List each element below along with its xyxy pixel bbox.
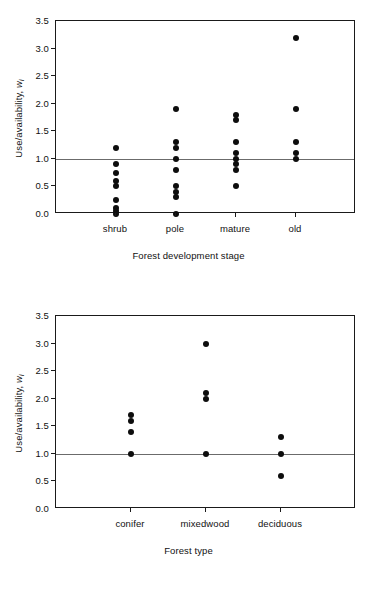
data-point: [203, 396, 209, 402]
data-point: [128, 451, 134, 457]
y-tick-label-0-5: 2.5: [1, 70, 49, 81]
y-tick-label-1-3: 1.5: [1, 420, 49, 431]
y-tick-label-1-2: 1.0: [1, 447, 49, 458]
data-point: [173, 194, 179, 200]
data-point: [233, 167, 239, 173]
x-tick-label-1-1: mixedwood: [181, 518, 230, 529]
data-point: [173, 106, 179, 112]
data-point: [233, 139, 239, 145]
data-point: [293, 139, 299, 145]
y-tick-label-0-2: 1.0: [1, 152, 49, 163]
x-tick-mark-1-2: [280, 508, 281, 512]
y-tick-mark-1-3: [51, 425, 55, 426]
data-point: [233, 183, 239, 189]
y-tick-mark-0-5: [51, 75, 55, 76]
y-tick-label-0-6: 3.0: [1, 42, 49, 53]
data-point: [113, 197, 119, 203]
x-tick-label-0-3: old: [289, 223, 302, 234]
x-tick-label-0-1: pole: [166, 223, 184, 234]
y-tick-label-0-0: 0.0: [1, 208, 49, 219]
data-point: [128, 429, 134, 435]
data-point: [113, 170, 119, 176]
data-point: [203, 341, 209, 347]
y-tick-mark-1-4: [51, 398, 55, 399]
y-tick-mark-0-4: [51, 103, 55, 104]
data-point: [278, 473, 284, 479]
x-tick-mark-0-1: [175, 213, 176, 217]
data-point: [113, 183, 119, 189]
data-point: [278, 434, 284, 440]
y-tick-mark-1-1: [51, 480, 55, 481]
plot-area-2: [55, 315, 355, 508]
data-point: [173, 211, 179, 217]
y-tick-label-0-1: 0.5: [1, 180, 49, 191]
x-axis-title-2: Forest type: [0, 545, 377, 556]
y-tick-label-1-4: 2.0: [1, 392, 49, 403]
figure-forest-type: Use/availability, wi 0.00.51.01.52.02.53…: [0, 295, 377, 600]
y-tick-label-1-0: 0.0: [1, 503, 49, 514]
y-tick-label-1-5: 2.5: [1, 365, 49, 376]
y-tick-mark-1-2: [51, 453, 55, 454]
data-point: [173, 156, 179, 162]
y-tick-mark-1-6: [51, 343, 55, 344]
plot-area-1: [55, 20, 355, 213]
data-point: [113, 161, 119, 167]
x-tick-label-1-0: conifer: [115, 518, 144, 529]
x-axis-title-1: Forest development stage: [0, 250, 377, 261]
reference-line-0: [56, 159, 354, 160]
data-point: [278, 451, 284, 457]
y-tick-label-0-7: 3.5: [1, 15, 49, 26]
y-tick-label-1-7: 3.5: [1, 310, 49, 321]
y-axis-title-symbol-2: w: [13, 376, 24, 383]
data-point: [128, 418, 134, 424]
data-point: [173, 145, 179, 151]
y-tick-mark-0-6: [51, 48, 55, 49]
x-tick-label-0-2: mature: [220, 223, 250, 234]
x-tick-mark-1-0: [130, 508, 131, 512]
x-tick-label-0-0: shrub: [103, 223, 127, 234]
y-tick-mark-0-3: [51, 130, 55, 131]
x-tick-mark-0-0: [115, 213, 116, 217]
data-point: [203, 451, 209, 457]
y-tick-mark-1-5: [51, 370, 55, 371]
y-tick-mark-0-1: [51, 185, 55, 186]
y-tick-mark-0-2: [51, 158, 55, 159]
x-tick-label-1-2: deciduous: [258, 518, 302, 529]
data-point: [113, 211, 119, 217]
x-tick-mark-1-1: [205, 508, 206, 512]
y-axis-title-symbol-1: w: [13, 81, 24, 88]
figure-forest-development-stage: Use/availability, wi 0.00.51.01.52.02.53…: [0, 0, 377, 295]
data-point: [293, 35, 299, 41]
data-point: [293, 106, 299, 112]
data-point: [293, 156, 299, 162]
data-point: [113, 145, 119, 151]
x-tick-mark-0-2: [235, 213, 236, 217]
data-point: [233, 117, 239, 123]
y-tick-label-0-3: 1.5: [1, 125, 49, 136]
data-point: [173, 167, 179, 173]
y-tick-label-1-6: 3.0: [1, 337, 49, 348]
y-tick-label-1-1: 0.5: [1, 475, 49, 486]
x-tick-mark-0-3: [295, 213, 296, 217]
y-tick-label-0-4: 2.0: [1, 97, 49, 108]
